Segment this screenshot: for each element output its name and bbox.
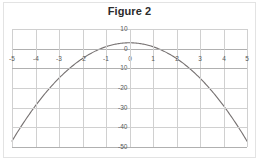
x-axis-tick-label: 3 xyxy=(191,55,209,62)
x-axis-tick-label: 1 xyxy=(144,55,162,62)
plot-area: 100-10-20-30-40-50-5-4-3-2-1012345 xyxy=(12,29,247,147)
y-axis-tick-label: -30 xyxy=(106,104,128,111)
figure-container: Figure 2 100-10-20-30-40-50-5-4-3-2-1012… xyxy=(0,0,259,160)
y-axis-tick-label: -20 xyxy=(106,84,128,91)
x-axis-tick-label: 5 xyxy=(238,55,256,62)
x-axis-tick-label: 4 xyxy=(215,55,233,62)
gridline-vertical xyxy=(36,29,37,147)
y-axis-tick-label: 10 xyxy=(106,25,128,32)
y-axis-tick-label: -40 xyxy=(106,123,128,130)
y-axis-tick-label: 0 xyxy=(106,45,128,52)
y-axis-tick-label: -50 xyxy=(106,143,128,150)
x-axis-tick-label: -5 xyxy=(3,55,21,62)
chart-title: Figure 2 xyxy=(0,5,259,18)
gridline-vertical xyxy=(224,29,225,147)
x-axis-tick-label: -1 xyxy=(97,55,115,62)
gridline-horizontal xyxy=(12,147,247,148)
gridline-vertical xyxy=(247,29,248,147)
gridline-vertical xyxy=(12,29,13,147)
gridline-vertical xyxy=(106,29,107,147)
gridline-vertical xyxy=(200,29,201,147)
gridline-vertical xyxy=(177,29,178,147)
x-axis-tick-label: -4 xyxy=(27,55,45,62)
gridline-vertical xyxy=(59,29,60,147)
x-axis-tick-label: 2 xyxy=(168,55,186,62)
y-axis-line xyxy=(130,29,131,147)
x-axis-tick-label: -3 xyxy=(50,55,68,62)
gridline-vertical xyxy=(83,29,84,147)
gridline-vertical xyxy=(153,29,154,147)
x-axis-tick-label: -2 xyxy=(74,55,92,62)
